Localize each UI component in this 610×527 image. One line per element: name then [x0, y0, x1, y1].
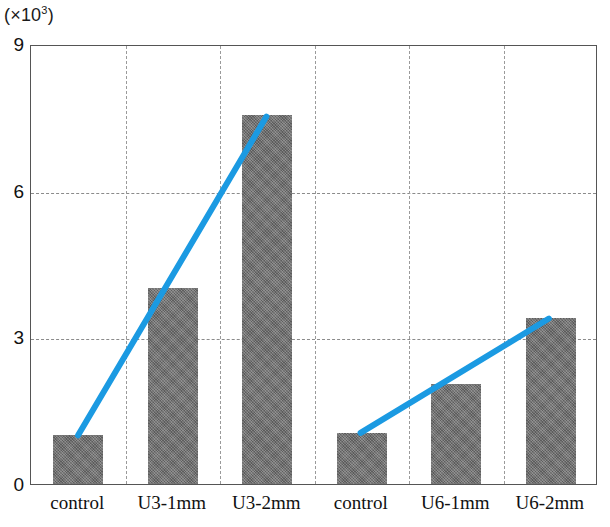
chart-root: (×103) 0369 controlU3-1mmU3-2mmcontrolU6… [0, 0, 610, 527]
x-axis-tick-label: U3-2mm [232, 492, 301, 514]
vertical-gridline [409, 46, 410, 484]
x-axis-tick-label: U6-2mm [515, 492, 584, 514]
y-axis-tick-label: 0 [0, 474, 24, 496]
horizontal-gridline [31, 339, 596, 340]
bar [242, 115, 292, 484]
bar [337, 433, 387, 484]
y-axis-tick-label: 3 [0, 327, 24, 349]
y-axis-unit-close: ) [48, 5, 54, 25]
y-axis-tick-labels: 0369 [0, 45, 24, 485]
x-axis-tick-label: control [50, 492, 104, 514]
x-axis-tick-labels: controlU3-1mmU3-2mmcontrolU6-1mmU6-2mm [30, 492, 597, 526]
x-axis-tick-label: control [334, 492, 388, 514]
x-axis-tick-label: U3-1mm [137, 492, 206, 514]
vertical-gridline [315, 46, 316, 484]
horizontal-gridline [31, 193, 596, 194]
y-axis-unit-label: (×103) [4, 4, 54, 26]
y-axis-unit-base: (×10 [4, 5, 41, 25]
vertical-gridline [504, 46, 505, 484]
plot-area [30, 45, 597, 485]
bar [431, 384, 481, 484]
bar [53, 435, 103, 484]
bar [526, 318, 576, 484]
vertical-gridline [220, 46, 221, 484]
y-axis-tick-label: 9 [0, 34, 24, 56]
trend-lines-layer [31, 46, 596, 484]
vertical-gridline [126, 46, 127, 484]
bar [148, 288, 198, 484]
x-axis-tick-label: U6-1mm [421, 492, 490, 514]
y-axis-tick-label: 6 [0, 181, 24, 203]
